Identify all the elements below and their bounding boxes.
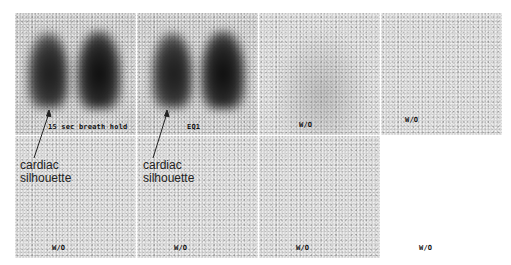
panel-label: W/O [296,244,309,252]
panel-label: W/O [405,116,418,124]
scan-panel-washout-4: W/O [137,136,258,258]
annotation-line: silhouette [20,172,71,185]
scan-background [137,136,258,258]
panel-label: W/O [419,244,432,252]
annotation-cardiac-silhouette-2: cardiac silhouette [143,159,194,185]
scan-background [259,136,380,258]
left-lung [201,31,245,109]
right-lung [28,33,68,108]
annotation-cardiac-silhouette-1: cardiac silhouette [20,159,71,185]
scan-panel-eq1: EQ1 [137,13,258,135]
scan-background [381,13,502,135]
panel-label: W/O [52,244,65,252]
scan-panel-washout-5: W/O [259,136,380,258]
scan-background [381,136,502,258]
scan-panel-washout-6: W/O [381,136,502,258]
annotation-line: silhouette [143,172,194,185]
right-lung [152,33,192,108]
scan-panel-washout-1: W/O [259,13,380,135]
faint-lung-activity [274,28,369,135]
scan-panel-washout-2: W/O [381,13,502,135]
left-lung [77,31,121,109]
panel-label: W/O [174,244,187,252]
scan-panel-washout-3: W/O [15,136,136,258]
panel-label: 15 sec breath hold [48,123,127,131]
scan-grid: 15 sec breath hold EQ1 W/O W/O W/O W/O W… [15,13,501,259]
scan-panel-breath-hold: 15 sec breath hold [15,13,136,135]
panel-label: EQ1 [187,123,200,131]
scan-background [15,136,136,258]
panel-label: W/O [299,121,312,129]
